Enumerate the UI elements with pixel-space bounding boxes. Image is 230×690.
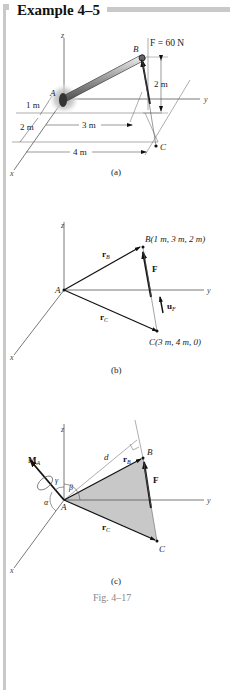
- figure-c: z y x A B C MA γ β α d rB rC F (c): [9, 420, 211, 586]
- axis-y-label: y: [203, 95, 208, 104]
- moment-arrow: [30, 460, 64, 500]
- vector-rc-label: rC: [100, 312, 109, 323]
- axis-y-label: y: [206, 496, 211, 505]
- dim-3m: 3 m: [82, 120, 96, 130]
- point-a-label: A: [49, 88, 56, 98]
- angle-alpha: α: [44, 498, 49, 507]
- point-c-coords: C(3 m, 4 m, 0): [149, 337, 201, 347]
- distance-d-label: d: [104, 452, 109, 462]
- shaded-triangle: [64, 458, 157, 541]
- vector-rb-label: rB: [123, 454, 131, 465]
- caption-a: (a): [111, 167, 121, 177]
- angle-beta: β: [68, 483, 73, 492]
- vector-rb-label: rB: [102, 249, 110, 260]
- dim-1m: 1 m: [26, 100, 40, 110]
- dim-2m-vertical: 2 m: [154, 79, 168, 89]
- vector-f-label: F: [153, 475, 159, 485]
- point-a-label: A: [54, 285, 61, 295]
- point-b-label: B: [133, 44, 139, 54]
- figure-4-17: 2 m 3 m 4 m 1 m 2 m z y x A B C F = 60 N…: [0, 0, 230, 690]
- axis-x-label: x: [9, 169, 14, 178]
- angle-gamma: γ: [55, 476, 59, 485]
- point-b-coords: B(1 m, 3 m, 2 m): [145, 234, 205, 244]
- axis-y-label: y: [206, 286, 211, 295]
- moment-ma-label: MA: [28, 455, 41, 466]
- caption-b: (b): [111, 365, 122, 375]
- figure-caption: Fig. 4–17: [93, 592, 131, 603]
- vector-rc-label: rC: [102, 522, 111, 533]
- axis-x-label: x: [9, 566, 14, 575]
- point-b-label: B: [147, 447, 153, 457]
- caption-c: (c): [111, 576, 121, 586]
- axis-x-label: x: [9, 353, 14, 362]
- dim-4m: 4 m: [73, 147, 87, 157]
- vector-uf-label: uF: [167, 301, 176, 312]
- figure-a: 2 m 3 m 4 m 1 m 2 m z y x A B C F = 60 N…: [9, 31, 208, 178]
- point-c-label: C: [159, 544, 166, 554]
- point-a-label: A: [60, 502, 67, 512]
- figure-b: z y x A B(1 m, 3 m, 2 m) C(3 m, 4 m, 0) …: [9, 221, 211, 375]
- force-magnitude-label: F = 60 N: [150, 38, 184, 48]
- dim-2m-x: 2 m: [20, 122, 34, 132]
- point-c-label: C: [160, 142, 167, 152]
- vector-f-label: F: [152, 264, 158, 274]
